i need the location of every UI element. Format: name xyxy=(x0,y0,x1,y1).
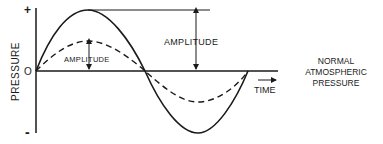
y-axis-label: PRESSURE xyxy=(10,42,21,101)
amplitude-large-label: AMPLITUDE xyxy=(164,37,218,47)
baseline-label-line-1: NORMAL xyxy=(318,56,355,66)
amplitude-small-label: AMPLITUDE xyxy=(64,55,110,64)
baseline-label-line-2: ATMOSPHERIC xyxy=(305,67,367,77)
diagram-svg: + O - PRESSURE AMPLITUDE AMPLITUDE TIME … xyxy=(0,0,383,144)
baseline-label-line-3: PRESSURE xyxy=(313,78,360,88)
tick-minus: - xyxy=(25,124,30,140)
tick-plus: + xyxy=(24,3,31,17)
time-label: TIME xyxy=(254,85,276,95)
sound-wave-diagram: + O - PRESSURE AMPLITUDE AMPLITUDE TIME … xyxy=(0,0,383,144)
tick-zero: O xyxy=(24,66,32,77)
